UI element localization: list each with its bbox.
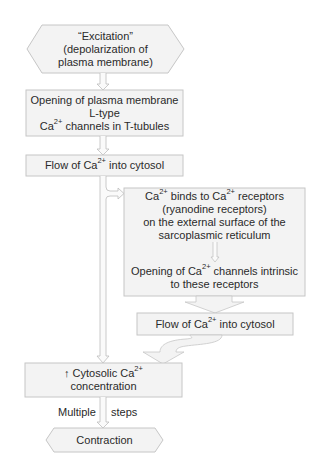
cytosolic-charge: 2+	[134, 364, 143, 373]
edge-label-steps: steps	[111, 406, 137, 419]
arrow-ltype-to-flow	[97, 136, 109, 155]
opening-line-2: to these receptors	[170, 278, 258, 291]
binding-line-1: Ca2+ binds to Ca2+ receptors	[145, 190, 284, 203]
edge-label-multiple: Multiple	[58, 406, 96, 419]
ltype-line-3: Ca2+ channels in T-tubules	[40, 120, 169, 133]
flow-1-line: Flow of Ca2+ into cytosol	[45, 159, 164, 172]
contraction-label: Contraction	[46, 428, 163, 452]
ltype-ca-charge: 2+	[54, 117, 63, 126]
cytosolic-pre: ↑ Cytosolic Ca	[64, 367, 134, 379]
flow-2-line: Flow of Ca2+ into cytosol	[155, 318, 274, 331]
flow-2-pre: Flow of Ca	[155, 318, 208, 330]
flow-1-charge: 2+	[97, 156, 106, 165]
ryanodine-binding-label: Ca2+ binds to Ca2+ receptors (ryanodine …	[124, 190, 305, 242]
flow-2-post: into cytosol	[217, 318, 275, 330]
opening-pre: Opening of Ca	[131, 265, 202, 277]
arrow-ryanodine-to-flow2	[185, 296, 244, 313]
flow-2-label: Flow of Ca2+ into cytosol	[137, 313, 293, 335]
opening-charge: 2+	[202, 262, 211, 271]
binding-charge-1: 2+	[159, 187, 168, 196]
binding-charge-2: 2+	[226, 187, 235, 196]
cytosolic-line-2: concentration	[70, 380, 136, 393]
binding-line-2: (ryanodine receptors)	[162, 203, 267, 216]
flow-1-pre: Flow of Ca	[45, 159, 98, 171]
binding-line-4: sarcoplasmic reticulum	[159, 229, 271, 242]
excitation-line-2: (depolarization of	[63, 43, 147, 56]
ryanodine-opening-label: Opening of Ca2+ channels intrinsic to th…	[124, 264, 305, 292]
contraction-text: Contraction	[76, 434, 132, 447]
opening-post: channels intrinsic	[211, 265, 298, 277]
flow-1-post: into cytosol	[106, 159, 164, 171]
ltype-channels-text: channels in T-tubules	[62, 120, 169, 132]
arrow-flow-to-cytosolic-and-branch	[97, 176, 124, 363]
ltype-line-1: Opening of plasma membrane	[31, 94, 179, 107]
flow-2-charge: 2+	[208, 315, 217, 324]
arrow-cytosolic-to-contraction	[97, 397, 109, 428]
excitation-line-1: “Excitation”	[78, 30, 133, 43]
opening-line-1: Opening of Ca2+ channels intrinsic	[131, 265, 298, 278]
excitation-label: “Excitation” (depolarization of plasma m…	[27, 25, 184, 73]
ltype-line-2: L-type	[89, 107, 120, 120]
ltype-ca-text: Ca	[40, 120, 54, 132]
flow-1-label: Flow of Ca2+ into cytosol	[26, 155, 183, 176]
excitation-line-3: plasma membrane)	[58, 56, 153, 69]
arrow-flow2-to-cytosolic	[143, 335, 222, 364]
cytosolic-line-1: ↑ Cytosolic Ca2+	[64, 367, 143, 380]
ltype-label: Opening of plasma membrane L-type Ca2+ c…	[26, 90, 183, 136]
binding-line-3: on the external surface of the	[143, 216, 285, 229]
arrow-excitation-to-ltype	[97, 73, 109, 90]
cytosolic-label: ↑ Cytosolic Ca2+ concentration	[25, 363, 182, 397]
binding-ca-1: Ca	[145, 190, 159, 202]
binding-post: receptors	[235, 190, 284, 202]
binding-mid: binds to Ca	[168, 190, 227, 202]
